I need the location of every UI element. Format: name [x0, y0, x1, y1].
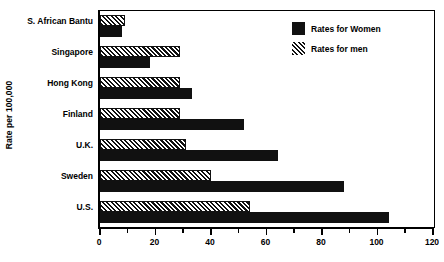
bar-group — [100, 139, 433, 161]
category-label: Finland — [63, 109, 93, 119]
bar-women — [100, 181, 344, 192]
bar-women — [100, 212, 389, 223]
category-label: S. African Bantu — [27, 16, 93, 26]
bar-men — [100, 201, 250, 212]
x-tick-major — [377, 229, 379, 235]
legend-label: Rates for Women — [311, 24, 381, 34]
bar-chart: Rate per 100,000 S. African BantuSingapo… — [0, 0, 444, 262]
bar-men — [100, 170, 211, 181]
bar-men — [100, 108, 180, 119]
x-tick-major — [321, 229, 323, 235]
x-tick-label: 40 — [205, 237, 214, 247]
bar-women — [100, 57, 150, 68]
x-tick-major — [210, 229, 212, 235]
category-label: U.K. — [76, 140, 93, 150]
x-tick-minor — [238, 229, 240, 233]
x-tick-label: 20 — [150, 237, 159, 247]
bar-women — [100, 150, 278, 161]
x-tick-major — [266, 229, 268, 235]
y-axis-title-text: Rate per 100,000 — [4, 81, 14, 150]
y-axis-title: Rate per 100,000 — [0, 0, 18, 230]
x-tick-label: 100 — [369, 237, 383, 247]
legend-item: Rates for men — [292, 42, 422, 55]
x-tick-minor — [127, 229, 129, 233]
bar-group — [100, 170, 433, 192]
legend-swatch-solid — [292, 22, 305, 35]
x-tick-minor — [349, 229, 351, 233]
legend-item: Rates for Women — [292, 22, 422, 35]
bar-men — [100, 77, 180, 88]
x-tick-label: 60 — [261, 237, 270, 247]
x-tick-minor — [404, 229, 406, 233]
bar-group — [100, 201, 433, 223]
x-tick-major — [432, 229, 434, 235]
bar-women — [100, 26, 122, 37]
x-tick-major — [99, 229, 101, 235]
legend-label: Rates for men — [311, 44, 368, 54]
bar-group — [100, 77, 433, 99]
bar-women — [100, 119, 244, 130]
bar-group — [100, 108, 433, 130]
bar-men — [100, 139, 186, 150]
legend-swatch-hatched — [292, 42, 305, 55]
bar-men — [100, 46, 180, 57]
x-axis-ticks — [99, 229, 434, 236]
x-tick-label: 80 — [316, 237, 325, 247]
x-tick-label: 120 — [425, 237, 439, 247]
category-label: U.S. — [76, 202, 93, 212]
x-tick-major — [155, 229, 157, 235]
category-label: Sweden — [61, 171, 93, 181]
x-tick-label: 0 — [97, 237, 102, 247]
x-axis-tick-labels: 020406080100120 — [99, 237, 434, 251]
legend: Rates for WomenRates for men — [292, 22, 422, 62]
bar-men — [100, 15, 125, 26]
bar-women — [100, 88, 192, 99]
category-label: Singapore — [51, 47, 93, 57]
x-tick-minor — [182, 229, 184, 233]
category-label: Hong Kong — [47, 78, 93, 88]
category-axis-labels: S. African BantuSingaporeHong KongFinlan… — [18, 10, 97, 217]
x-tick-minor — [293, 229, 295, 233]
